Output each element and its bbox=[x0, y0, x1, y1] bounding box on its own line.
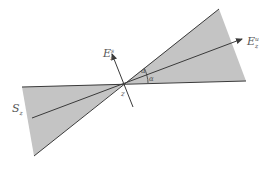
cone-label: Sz bbox=[12, 102, 24, 116]
angle-label-upper: α bbox=[141, 67, 146, 75]
unstable-direction-label: Euz bbox=[246, 35, 259, 49]
point-label: z bbox=[120, 90, 125, 98]
stable-direction-label: Esz bbox=[102, 47, 114, 61]
cone-left bbox=[22, 84, 124, 156]
angle-label-lower: α bbox=[149, 75, 154, 83]
cone-diagram: Esz Euz α α z Sz bbox=[0, 0, 267, 169]
